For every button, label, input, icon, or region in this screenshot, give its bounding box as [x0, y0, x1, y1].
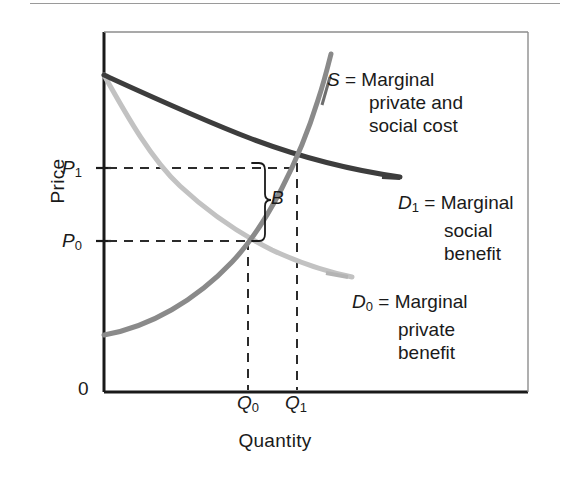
- y-tick-label-p1: P1: [62, 157, 82, 180]
- curve-label-supply: S = Marginal private and social cost: [327, 45, 463, 160]
- curve-label-demand-private: D0 = Marginal private benefit: [352, 267, 468, 387]
- y-axis-title: Price: [47, 121, 69, 241]
- x-tick-label-q1: Q1: [285, 392, 307, 415]
- demand-private-symbol: D0: [352, 291, 373, 312]
- guide-lines: [108, 163, 297, 390]
- origin-label: 0: [78, 378, 89, 400]
- x-axis-title: Quantity: [210, 430, 340, 452]
- annotation-label-b: B: [271, 187, 284, 209]
- externality-figure: Price Quantity P1 P0 0 Q0 Q1 B S = Margi…: [0, 0, 564, 484]
- demand-social-symbol: D1: [398, 192, 419, 213]
- x-tick-label-q0: Q0: [237, 392, 259, 415]
- y-tick-label-p0: P0: [62, 230, 82, 253]
